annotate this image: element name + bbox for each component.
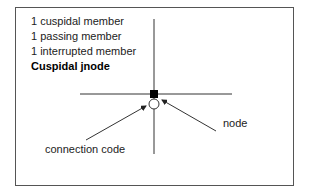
connection-code-circle-icon [149,99,159,109]
jnode-diagram [0,0,310,196]
connection-code-arrow [86,106,146,140]
node-label: node [223,116,247,130]
node-square-icon [150,90,158,98]
connection-code-label: connection code [45,142,125,156]
node-arrow [162,100,216,131]
